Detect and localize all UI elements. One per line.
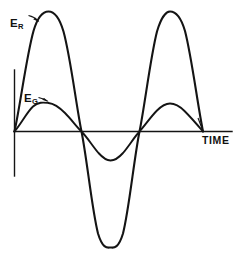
x-axis-label-time: TIME xyxy=(202,135,229,146)
curve-label-er-subscript: R xyxy=(18,22,23,31)
curve-label-eg: EG xyxy=(24,93,38,105)
waveform-figure: ER EG TIME xyxy=(0,0,240,257)
waveform-plot xyxy=(0,0,240,257)
curve-label-eg-subscript: G xyxy=(32,97,38,106)
curve-label-eg-symbol: E xyxy=(24,92,32,104)
curve-label-er-symbol: E xyxy=(10,17,18,29)
curve-label-er: ER xyxy=(10,18,23,30)
curve-er xyxy=(15,12,204,248)
